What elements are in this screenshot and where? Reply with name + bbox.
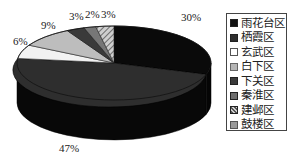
label-xuanwu: 6% xyxy=(13,35,28,47)
legend-label: 鼓楼区 xyxy=(241,119,274,131)
legend-label: 雨花台区 xyxy=(241,18,285,30)
legend-item-gulou: 鼓楼区 xyxy=(230,118,286,133)
legend-swatch xyxy=(230,48,238,56)
legend-swatch xyxy=(230,106,238,114)
legend-item-xuanwu: 玄武区 xyxy=(230,45,286,60)
legend-item-xiaguan: 下关区 xyxy=(230,74,286,89)
label-jianye: 3% xyxy=(101,8,116,20)
legend-label: 栖霞区 xyxy=(241,32,274,44)
label-baixia: 9% xyxy=(41,19,56,31)
label-xiaguan: 3% xyxy=(69,10,84,22)
legend-swatch xyxy=(230,121,238,129)
legend-label: 秦淮区 xyxy=(241,90,274,102)
label-yuhuatai: 30% xyxy=(181,11,201,23)
legend-swatch xyxy=(230,77,238,85)
legend-item-baixia: 白下区 xyxy=(230,60,286,75)
chart-legend: 雨花台区 栖霞区 玄武区 白下区 下关区 秦淮区 建邺区 鼓楼区 xyxy=(226,13,287,131)
label-qinhuai: 2% xyxy=(85,8,100,20)
legend-swatch xyxy=(230,34,238,42)
legend-item-yuhuatai: 雨花台区 xyxy=(230,16,286,31)
legend-item-qinhuai: 秦淮区 xyxy=(230,89,286,104)
legend-label: 下关区 xyxy=(241,76,274,88)
legend-label: 玄武区 xyxy=(241,47,274,59)
legend-swatch xyxy=(230,19,238,27)
legend-item-qixia: 栖霞区 xyxy=(230,31,286,46)
legend-item-jianye: 建邺区 xyxy=(230,103,286,118)
legend-swatch xyxy=(230,92,238,100)
label-qixia: 47% xyxy=(59,142,79,154)
legend-label: 建邺区 xyxy=(241,105,274,117)
legend-label: 白下区 xyxy=(241,61,274,73)
legend-swatch xyxy=(230,63,238,71)
